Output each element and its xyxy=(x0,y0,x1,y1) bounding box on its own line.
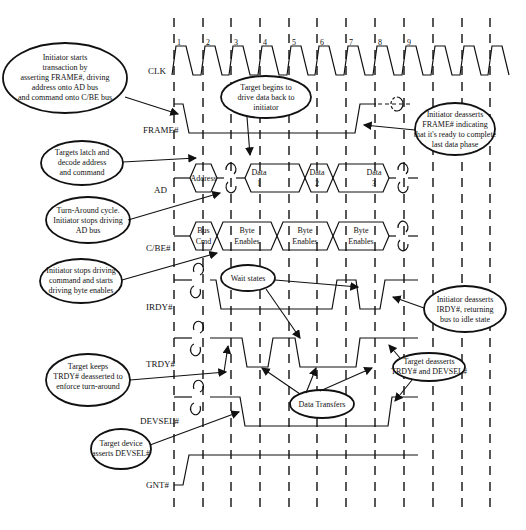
svg-text:asserts DEVSEL#: asserts DEVSEL# xyxy=(92,449,150,458)
cbe-be3-label2: Enables xyxy=(348,237,373,246)
svg-text:transaction by: transaction by xyxy=(42,63,87,72)
annotation-target-begins: Target begins to drive data back to init… xyxy=(221,76,311,155)
svg-text:decode address: decode address xyxy=(58,158,107,167)
signal-label-devsel: DEVSEL# xyxy=(140,416,179,426)
clock-number: 4 xyxy=(263,38,267,47)
clock-number: 9 xyxy=(407,38,411,47)
svg-text:enforce turn-around: enforce turn-around xyxy=(56,382,120,391)
svg-text:initiator: initiator xyxy=(253,103,279,112)
svg-text:Target deasserts: Target deasserts xyxy=(403,357,454,366)
ad-data1-index: 1 xyxy=(257,179,261,188)
svg-text:and command onto C/BE bus: and command onto C/BE bus xyxy=(18,93,112,102)
clock-number: 8 xyxy=(378,38,382,47)
signal-label-gnt: GNT# xyxy=(146,480,169,490)
signal-label-frame: FRAME# xyxy=(143,125,179,135)
svg-text:driving byte enables: driving byte enables xyxy=(49,286,114,295)
svg-text:Turn-Around cycle.: Turn-Around cycle. xyxy=(56,206,119,215)
svg-text:Target device: Target device xyxy=(99,439,142,448)
svg-text:Initiator starts: Initiator starts xyxy=(43,53,88,62)
clock-number: 3 xyxy=(234,38,238,47)
svg-text:IRDY#, returning: IRDY#, returning xyxy=(437,305,494,314)
svg-text:last data phase: last data phase xyxy=(432,140,479,149)
annotation-turn-around: Turn-Around cycle. Initiator stops drivi… xyxy=(46,193,220,243)
annotation-targets-latch: Targets latch and decode address and com… xyxy=(41,141,196,185)
svg-text:and command: and command xyxy=(59,168,104,177)
svg-text:Initiator deasserts: Initiator deasserts xyxy=(437,295,494,304)
ad-data3-index: 3 xyxy=(372,179,376,188)
ad-data2-index: 2 xyxy=(315,179,319,188)
svg-text:TRDY# deasserted to: TRDY# deasserted to xyxy=(53,372,122,381)
svg-text:Target begins to: Target begins to xyxy=(240,83,291,92)
svg-text:address onto AD bus: address onto AD bus xyxy=(32,83,98,92)
pci-timing-diagram: CLK FRAME# AD C/BE# IRDY# TRDY# DEVSEL# … xyxy=(0,0,526,530)
annotation-initiator-deasserts-irdy: Initiator deasserts IRDY#, returning bus… xyxy=(393,286,506,332)
ad-data3-label: Data xyxy=(366,168,382,177)
svg-text:command and starts: command and starts xyxy=(49,276,113,285)
svg-text:that it's ready to complete: that it's ready to complete xyxy=(414,130,497,139)
cbe-be1-label: Byte xyxy=(239,226,255,235)
annotation-initiator-deasserts-frame: Initiator deasserts FRAME# indicating th… xyxy=(364,103,497,155)
signal-label-ad: AD xyxy=(154,185,167,195)
svg-text:Initiator deasserts: Initiator deasserts xyxy=(427,110,484,119)
svg-text:Data Transfers: Data Transfers xyxy=(299,400,346,409)
svg-text:AD bus: AD bus xyxy=(76,226,101,235)
svg-text:FRAME# indicating: FRAME# indicating xyxy=(422,120,488,129)
signal-label-cbe: C/BE# xyxy=(146,243,171,253)
svg-text:Target keeps: Target keeps xyxy=(68,362,108,371)
cbe-cmd-label2: Cmd xyxy=(196,237,212,246)
clock-number: 7 xyxy=(349,38,353,47)
ad-bus: Address Data 1 Data 2 Data 3 xyxy=(174,163,418,193)
cbe-cmd-label: Bus xyxy=(197,226,209,235)
trdy-waveform xyxy=(174,321,418,367)
svg-text:asserting FRAME#, driving: asserting FRAME#, driving xyxy=(20,73,109,82)
svg-text:bus to idle state: bus to idle state xyxy=(440,315,490,324)
signal-label-irdy: IRDY# xyxy=(146,302,173,312)
annotation-target-keeps-trdy: Target keeps TRDY# deasserted to enforce… xyxy=(46,346,228,406)
irdy-waveform xyxy=(174,263,418,309)
annotation-initiator-stops-cmd: Initiator stops driving command and star… xyxy=(40,253,217,303)
signal-label-trdy: TRDY# xyxy=(146,359,175,369)
clock-number: 6 xyxy=(320,38,324,47)
ad-data1-label: Data xyxy=(251,168,267,177)
svg-text:Wait states: Wait states xyxy=(231,274,266,283)
cbe-be2-label: Byte xyxy=(297,226,313,235)
svg-text:Initiator stops driving: Initiator stops driving xyxy=(46,266,115,275)
cbe-be2-label2: Enables xyxy=(292,237,317,246)
clk-waveform: 1 2 3 4 5 6 7 8 9 xyxy=(172,38,509,75)
cbe-be1-label2: Enables xyxy=(234,237,259,246)
svg-text:TRDY# and DEVSEL#: TRDY# and DEVSEL# xyxy=(391,367,467,376)
svg-text:Initiator stops driving: Initiator stops driving xyxy=(53,216,122,225)
cbe-be3-label: Byte xyxy=(353,226,369,235)
clock-number: 5 xyxy=(292,38,296,47)
gnt-waveform xyxy=(174,455,418,485)
annotation-initiator-starts: Initiator starts transaction by assertin… xyxy=(3,43,178,114)
clock-number: 2 xyxy=(206,38,210,47)
svg-text:drive data back to: drive data back to xyxy=(237,93,294,102)
signal-label-clk: CLK xyxy=(148,66,167,76)
ad-data2-label: Data xyxy=(309,168,325,177)
clock-number: 1 xyxy=(177,38,181,47)
annotation-target-deasserts: Target deasserts TRDY# and DEVSEL# xyxy=(389,345,467,401)
svg-text:Targets latch and: Targets latch and xyxy=(55,148,109,157)
ad-address-label: Address xyxy=(190,174,216,183)
cbe-bus: Bus Cmd Byte Enables Byte Enables Byte E… xyxy=(174,221,418,251)
